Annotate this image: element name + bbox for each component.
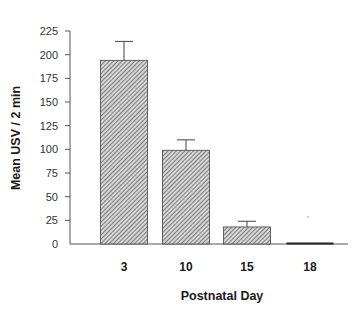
- x-tick-label: 10: [179, 260, 193, 274]
- y-tick-label: 200: [40, 49, 58, 61]
- bar-18: [287, 243, 334, 245]
- y-tick-label: 150: [40, 96, 58, 108]
- y-axis-title: Mean USV / 2 min: [9, 86, 23, 190]
- y-tick-label: 125: [40, 120, 58, 132]
- y-tick-label: 100: [40, 143, 58, 155]
- artifact-dot: [307, 216, 309, 218]
- x-tick-label: 3: [121, 260, 128, 274]
- y-tick-label: 50: [46, 191, 58, 203]
- bar-chart: 0255075100125150175200225 3101518 Mean U…: [0, 0, 359, 309]
- y-tick-label: 175: [40, 72, 58, 84]
- bars: [101, 41, 334, 244]
- bar-10: [163, 140, 210, 244]
- x-tick-label: 18: [303, 260, 317, 274]
- y-tick-label: 225: [40, 25, 58, 37]
- y-tick-label: 0: [52, 238, 58, 250]
- x-axis-title: Postnatal Day: [181, 289, 264, 303]
- bar-15: [224, 221, 271, 244]
- y-tick-label: 75: [46, 167, 58, 179]
- x-tick-label: 15: [240, 260, 254, 274]
- bar-3: [101, 41, 148, 244]
- x-axis-labels: 3101518: [121, 260, 317, 274]
- y-tick-label: 25: [46, 214, 58, 226]
